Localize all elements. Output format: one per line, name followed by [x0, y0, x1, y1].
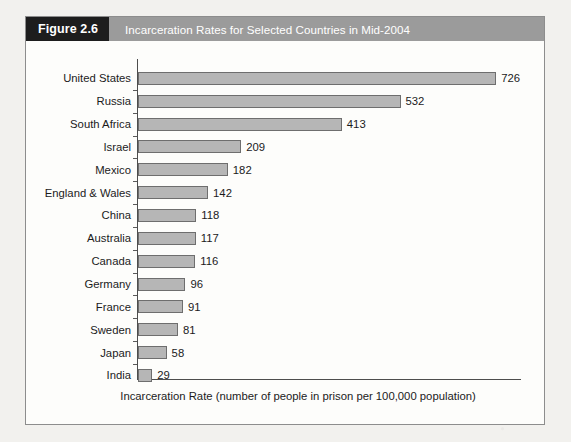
- category-label: Australia: [26, 232, 131, 244]
- x-axis-caption: Incarceration Rate (number of people in …: [26, 390, 544, 402]
- axis-tick: [133, 136, 137, 137]
- bar: [138, 140, 241, 153]
- axis-tick: [133, 113, 137, 114]
- bar: [138, 323, 178, 336]
- bar: [138, 232, 196, 245]
- axis-tick: [133, 318, 137, 319]
- bar-group: 182: [138, 163, 252, 176]
- bar-value-label: 96: [190, 278, 203, 290]
- axis-tick: [133, 204, 137, 205]
- bar-group: 413: [138, 118, 366, 131]
- bar-value-label: 142: [213, 187, 232, 199]
- plot-area: United States726Russia532South Africa413…: [26, 41, 544, 426]
- category-label: China: [26, 209, 131, 221]
- category-label: South Africa: [26, 118, 131, 130]
- bar-row: Mexico182: [26, 158, 544, 181]
- bar-value-label: 182: [233, 164, 252, 176]
- bar-row: Japan58: [26, 341, 544, 364]
- bar-row: United States726: [26, 67, 544, 90]
- bar-value-label: 81: [183, 324, 196, 336]
- axis-tick: [133, 295, 137, 296]
- category-label: England & Wales: [26, 187, 131, 199]
- category-label: France: [26, 301, 131, 313]
- axis-tick: [133, 158, 137, 159]
- bar: [138, 209, 196, 222]
- figure-panel: Figure 2.6 Incarceration Rates for Selec…: [25, 16, 545, 425]
- category-label: Israel: [26, 141, 131, 153]
- bar: [138, 72, 496, 85]
- bar: [138, 346, 167, 359]
- bar-group: 142: [138, 186, 232, 199]
- bar-value-label: 532: [406, 95, 425, 107]
- bar-value-label: 91: [188, 301, 201, 313]
- figure-header: Figure 2.6 Incarceration Rates for Selec…: [26, 17, 544, 41]
- bar-row: India29: [26, 364, 544, 387]
- bar: [138, 95, 401, 108]
- axis-tick: [133, 341, 137, 342]
- bar-value-label: 413: [347, 118, 366, 130]
- axis-tick: [133, 90, 137, 91]
- axis-tick: [133, 250, 137, 251]
- category-label: Mexico: [26, 164, 131, 176]
- bar-value-label: 726: [501, 72, 520, 84]
- bar-row: France91: [26, 295, 544, 318]
- bar-value-label: 29: [157, 369, 170, 381]
- bar-row: Canada116: [26, 250, 544, 273]
- bar-group: 726: [138, 72, 520, 85]
- bar-value-label: 118: [201, 209, 219, 221]
- category-label: India: [26, 369, 131, 381]
- bar-group: 96: [138, 278, 203, 291]
- bar-group: 209: [138, 140, 265, 153]
- figure-number-badge: Figure 2.6: [26, 17, 109, 41]
- bar-group: 91: [138, 300, 200, 313]
- bar-row: England & Wales142: [26, 181, 544, 204]
- category-label: Canada: [26, 255, 131, 267]
- bar: [138, 255, 195, 268]
- bar-rows: United States726Russia532South Africa413…: [26, 67, 544, 387]
- bar-group: 118: [138, 209, 219, 222]
- category-label: Japan: [26, 347, 131, 359]
- bar-row: China118: [26, 204, 544, 227]
- axis-tick: [133, 273, 137, 274]
- bar-group: 81: [138, 323, 196, 336]
- category-label: Sweden: [26, 324, 131, 336]
- bar: [138, 278, 185, 291]
- bar-group: 58: [138, 346, 184, 359]
- bar: [138, 300, 183, 313]
- bar: [138, 186, 208, 199]
- axis-tick: [133, 364, 137, 365]
- axis-tick: [133, 227, 137, 228]
- bar-value-label: 58: [172, 347, 185, 359]
- bar-row: Russia532: [26, 90, 544, 113]
- bar: [138, 369, 152, 382]
- figure-title: Incarceration Rates for Selected Countri…: [109, 17, 410, 41]
- bar-value-label: 209: [246, 141, 265, 153]
- bar-row: Sweden81: [26, 318, 544, 341]
- bar-row: Australia117: [26, 227, 544, 250]
- category-label: Germany: [26, 278, 131, 290]
- bar-row: South Africa413: [26, 113, 544, 136]
- bar-value-label: 116: [200, 255, 218, 267]
- bar-group: 532: [138, 95, 424, 108]
- category-label: United States: [26, 72, 131, 84]
- category-label: Russia: [26, 95, 131, 107]
- bar-row: Israel209: [26, 136, 544, 159]
- bar-group: 29: [138, 369, 170, 382]
- bar: [138, 163, 228, 176]
- bar: [138, 118, 342, 131]
- bar-row: Germany96: [26, 273, 544, 296]
- bar-value-label: 117: [201, 232, 219, 244]
- bar-group: 117: [138, 232, 219, 245]
- axis-tick: [133, 181, 137, 182]
- bar-group: 116: [138, 255, 218, 268]
